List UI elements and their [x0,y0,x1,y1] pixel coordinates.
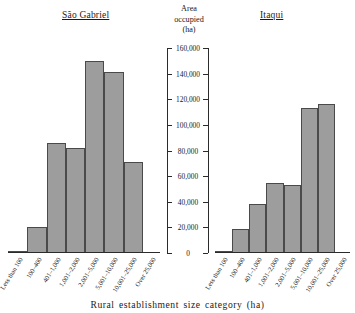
bar-group-sao-gabriel [8,48,160,253]
bar [47,143,66,253]
y-axis-tick-label: 120,000 [170,95,206,104]
figure-container: São Gabriel Itaqui Area occupied (ha) 16… [0,0,355,313]
x-axis-category-label: 100–400 [24,256,42,279]
y-axis-tick-label: 40,000 [170,197,206,206]
bar-group-itaqui [215,48,350,253]
bar [66,148,85,253]
bar [104,72,123,253]
y-axis-tick-label: 60,000 [170,172,206,181]
bar [124,162,143,253]
panel-title-itaqui: Itaqui [260,10,283,20]
y-axis-spine-right [208,48,209,253]
y-axis-heading-line-1: Area [166,4,212,15]
y-axis-heading: Area occupied (ha) [166,4,212,36]
y-axis-tick-label: 160,000 [170,44,206,53]
panel-title-sao-gabriel: São Gabriel [62,10,109,20]
bar [266,183,283,253]
plot-panel-sao-gabriel: Less than 100100–400401–1,0001,001–2,000… [8,48,160,253]
y-axis-heading-line-2: occupied [166,15,212,26]
y-axis-heading-line-3: (ha) [166,25,212,36]
bar [301,108,318,253]
bar [318,104,335,253]
x-axis-caption: Rural establishment size category (ha) [0,299,355,310]
y-axis-tick-label: 0 [170,249,206,258]
y-axis-tick-label: 20,000 [170,223,206,232]
bar [284,185,301,253]
bar [27,227,46,253]
y-axis-tick-label: 80,000 [170,146,206,155]
x-axis-category-label: Less than 100 [204,256,229,291]
bar [85,61,104,253]
plot-panel-itaqui: Less than 100100–400401–1,0001,001–2,000… [215,48,350,253]
y-axis-tick-label: 100,000 [170,120,206,129]
x-axis-category-label: Less than 100 [0,256,23,291]
bar [232,229,249,253]
y-axis-tick-label: 140,000 [170,69,206,78]
bar [249,204,266,253]
